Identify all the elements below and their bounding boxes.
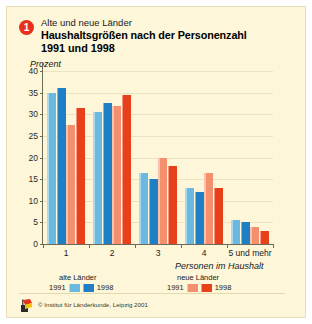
bar	[122, 95, 131, 244]
y-tick-label: 40	[29, 66, 38, 76]
bar-group: 2	[89, 71, 135, 244]
bar	[241, 222, 250, 244]
bar	[93, 112, 102, 244]
bar	[260, 231, 269, 244]
bar	[168, 166, 177, 244]
legend-year-label: 1991	[167, 283, 184, 292]
x-axis-title: Personen im Haushalt	[175, 261, 264, 271]
legend-swatch	[69, 284, 80, 292]
copyright-text: © Institut für Länderkunde, Leipzig 2001	[38, 301, 148, 308]
y-tick-label: 15	[29, 174, 38, 184]
y-tick-label: 5	[33, 217, 38, 227]
bar	[76, 108, 85, 244]
y-tick-label: 10	[29, 196, 38, 206]
x-tick-label: 4	[202, 248, 207, 258]
x-tick-mark	[135, 244, 136, 248]
bar	[103, 103, 112, 244]
x-tick-label: 3	[156, 248, 161, 258]
footer-divider	[19, 293, 285, 294]
y-tick-label: 25	[29, 131, 38, 141]
bar	[231, 220, 240, 244]
x-tick-mark	[43, 244, 44, 248]
bar-group: 5 und mehr	[227, 71, 273, 244]
y-tick-label: 0	[33, 239, 38, 249]
chart-title-line2: 1991 und 1998	[41, 42, 115, 54]
x-tick-mark	[273, 244, 274, 248]
y-tick-label: 20	[29, 153, 38, 163]
legend-year-label: 1998	[97, 283, 114, 292]
bar	[112, 106, 121, 244]
bar-group: 3	[135, 71, 181, 244]
legend-year-label: 1991	[49, 283, 66, 292]
x-tick-label: 2	[110, 248, 115, 258]
legend-swatch	[187, 284, 198, 292]
bar	[204, 173, 213, 244]
legend-year-label: 1998	[215, 283, 232, 292]
bar-group: 4	[181, 71, 227, 244]
bar-group: 1	[43, 71, 89, 244]
chart-title-line1: Haushaltsgrößen nach der Personenzahl	[41, 29, 247, 41]
plot-area: 0510152025303540 12345 und mehr	[43, 71, 273, 244]
bar	[195, 192, 204, 244]
x-axis-line	[42, 244, 274, 245]
legend-swatch	[83, 284, 94, 292]
legend-row: 19911998	[167, 283, 231, 292]
x-tick-mark	[89, 244, 90, 248]
bar	[250, 227, 259, 244]
legend-swatch	[201, 284, 212, 292]
x-tick-mark	[181, 244, 182, 248]
y-tick-label: 30	[29, 109, 38, 119]
figure-panel: 1 Alte und neue Länder Haushaltsgrößen n…	[6, 6, 306, 318]
bar	[57, 88, 66, 244]
x-tick-label: 1	[64, 248, 69, 258]
bar	[214, 188, 223, 244]
bar	[66, 125, 75, 244]
bar	[139, 173, 148, 244]
y-tick-label: 35	[29, 88, 38, 98]
figure-number-badge: 1	[19, 20, 34, 35]
legend-group-title: alte Länder	[59, 273, 97, 282]
footer: © Institut für Länderkunde, Leipzig 2001	[21, 298, 148, 311]
legend-group-title: neue Länder	[177, 273, 219, 282]
institute-logo-icon	[21, 298, 34, 311]
legend-row: 19911998	[49, 283, 113, 292]
bar	[47, 93, 56, 244]
bar	[149, 179, 158, 244]
bar	[158, 158, 167, 245]
bar	[185, 188, 194, 244]
x-tick-label: 5 und mehr	[229, 248, 272, 258]
chart-kicker: Alte und neue Länder	[41, 17, 132, 28]
